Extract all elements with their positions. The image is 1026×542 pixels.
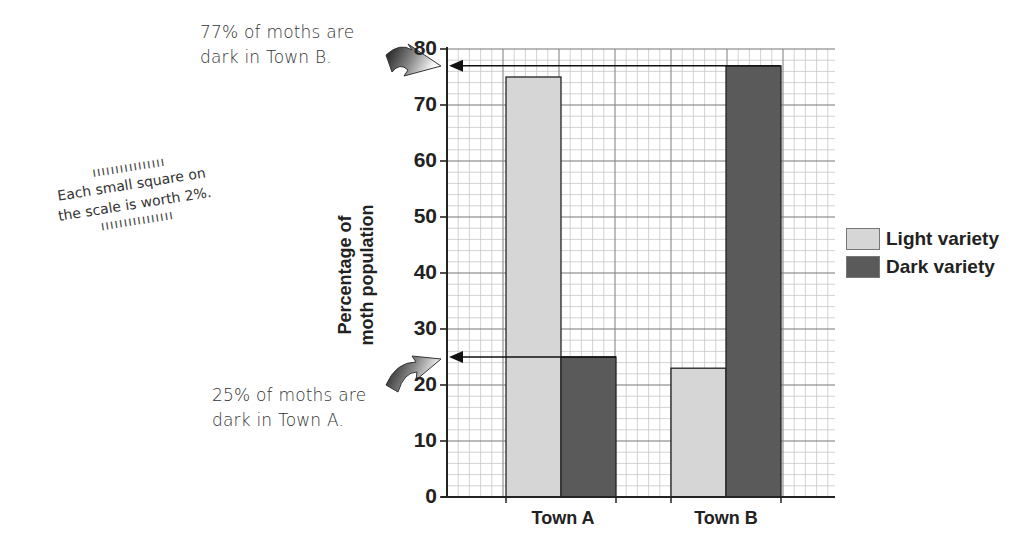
y-tick-label: 0 [397,484,437,508]
bar-light-variety-town-b [671,368,726,497]
legend-item-light: Light variety [846,225,999,253]
annotation-line: dark in Town B. [200,45,354,70]
y-axis-label: Percentage of moth population [334,190,394,360]
bar-light-variety-town-a [506,77,561,497]
y-axis-label-line: moth population [356,190,378,360]
y-tick-label: 50 [397,204,437,228]
bar-dark-variety-town-a [561,357,616,497]
y-tick-label: 80 [397,36,437,60]
legend-item-dark: Dark variety [846,253,999,281]
legend-swatch-dark [846,256,880,278]
y-axis-label-line: Percentage of [334,190,356,360]
x-category-label-town-b: Town B [671,508,781,529]
legend-label: Dark variety [886,256,995,278]
legend-label: Light variety [886,228,999,250]
bars [506,66,781,497]
bar-dark-variety-town-b [726,66,781,497]
y-tick-label: 40 [397,260,437,284]
annotation-line: 77% of moths are [200,20,354,45]
y-tick-label: 20 [397,372,437,396]
y-tick-label: 10 [397,428,437,452]
annotation-line: dark in Town A. [212,408,366,433]
annotation-town-b: 77% of moths are dark in Town B. [200,20,354,70]
annotation-line: 25% of moths are [212,383,366,408]
y-tick-label: 60 [397,148,437,172]
legend: Light variety Dark variety [846,225,999,281]
legend-swatch-light [846,228,880,250]
y-tick-label: 30 [397,316,437,340]
annotation-town-a: 25% of moths are dark in Town A. [212,383,366,433]
y-tick-label: 70 [397,92,437,116]
x-category-label-town-a: Town A [508,508,618,529]
